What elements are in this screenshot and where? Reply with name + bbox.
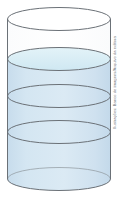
top-rim-ellipse (8, 8, 111, 31)
cylinder-illustration (0, 0, 127, 199)
liquid-surface-ellipse (8, 48, 111, 71)
figure-container: Ilustrações: Banco de imagens/Arquivo da… (0, 0, 127, 199)
image-credit-text: Ilustrações: Banco de imagens/Arquivo da… (113, 8, 127, 158)
